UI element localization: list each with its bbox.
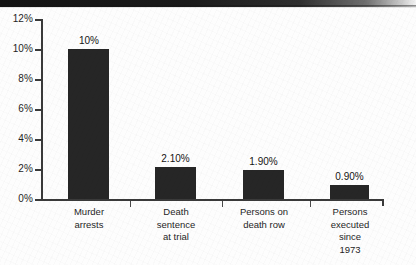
x-category-label-4: Persons executed since 1973 <box>311 206 389 256</box>
x-tick-2 <box>222 201 223 207</box>
bar-value-label-4: 0.90% <box>318 171 381 182</box>
y-axis-line <box>41 19 43 200</box>
x-category-label-3: Persons on death row <box>224 206 304 231</box>
bar-murder-arrests <box>68 49 109 199</box>
x-category-label-1: Murder arrests <box>51 206 127 231</box>
x-category-label-3-line-2: death row <box>224 219 304 232</box>
x-category-label-3-line-1: Persons on <box>224 206 304 219</box>
y-tick-label-8: 8% <box>0 74 33 84</box>
y-tick-10 <box>35 49 41 51</box>
x-category-label-1-line-1: Murder <box>51 206 127 219</box>
y-tick-12 <box>35 19 41 21</box>
y-tick-label-12: 12% <box>0 14 33 24</box>
bar-value-label-2: 2.10% <box>144 153 207 164</box>
bar-persons-executed-since-1973 <box>330 185 369 199</box>
y-tick-label-10: 10% <box>0 44 33 54</box>
y-tick-8 <box>35 79 41 81</box>
y-tick-4 <box>35 139 41 141</box>
y-tick-2 <box>35 169 41 171</box>
x-category-label-4-line-1: Persons <box>311 206 389 219</box>
x-category-label-1-line-2: arrests <box>51 219 127 232</box>
x-category-label-2-line-2: sentence <box>138 219 214 232</box>
x-category-label-4-line-3: since <box>311 231 389 244</box>
bar-value-label-1: 10% <box>58 35 120 46</box>
x-category-label-2-line-1: Death <box>138 206 214 219</box>
x-category-label-4-line-4: 1973 <box>311 244 389 257</box>
y-tick-label-4: 4% <box>0 134 33 144</box>
x-category-label-2: Death sentence at trial <box>138 206 214 244</box>
bar-chart: 0% 2% 4% 6% 8% 10% 12% 10% 2.10% 1.90% 0… <box>0 0 416 265</box>
bar-persons-on-death-row <box>243 170 284 199</box>
y-tick-label-2: 2% <box>0 164 33 174</box>
bar-death-sentence-at-trial <box>155 167 196 199</box>
y-tick-label-0: 0% <box>0 194 33 204</box>
x-axis-line <box>41 199 384 201</box>
y-tick-6 <box>35 109 41 111</box>
x-category-label-2-line-3: at trial <box>138 231 214 244</box>
x-tick-1 <box>130 201 131 207</box>
scan-edge-top <box>0 0 416 7</box>
bar-value-label-3: 1.90% <box>232 156 295 167</box>
x-category-label-4-line-2: executed <box>311 219 389 232</box>
chart-page: 0% 2% 4% 6% 8% 10% 12% 10% 2.10% 1.90% 0… <box>0 0 416 265</box>
y-tick-label-6: 6% <box>0 104 33 114</box>
x-axis-end-tick <box>382 199 384 206</box>
